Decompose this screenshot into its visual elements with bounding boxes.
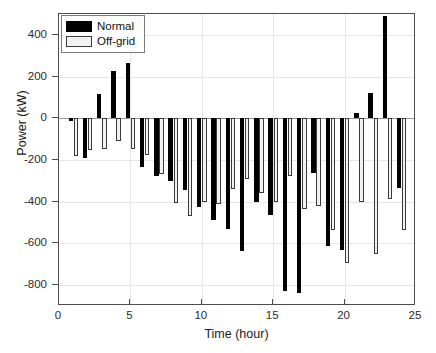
gridline xyxy=(130,14,131,304)
y-tick-mark xyxy=(52,34,58,35)
bar xyxy=(111,71,115,118)
bar xyxy=(154,118,158,175)
bar xyxy=(168,118,172,181)
bar xyxy=(88,118,92,149)
x-tick-mark xyxy=(344,299,345,305)
bar xyxy=(259,118,263,193)
x-tick-label: 10 xyxy=(181,309,221,321)
y-tick-label: -400 xyxy=(1,195,47,207)
legend-entry-normal: Normal xyxy=(66,19,140,34)
bar xyxy=(202,118,206,201)
chart-legend: Normal Off-grid xyxy=(61,15,145,53)
bar xyxy=(83,118,87,158)
legend-swatch-normal-icon xyxy=(66,21,92,32)
bar xyxy=(183,118,187,190)
y-tick-mark xyxy=(52,201,58,202)
legend-swatch-offgrid-icon xyxy=(66,36,92,47)
x-tick-label: 25 xyxy=(395,309,435,321)
legend-label-normal: Normal xyxy=(97,20,134,33)
x-tick-mark xyxy=(272,299,273,305)
bar-chart-figure: 4002000-200-400-600-800 0510152025 Power… xyxy=(0,0,436,353)
bar xyxy=(254,118,258,201)
bar xyxy=(245,118,249,178)
bar xyxy=(69,118,73,121)
bar xyxy=(145,118,149,155)
x-tick-label: 0 xyxy=(38,309,78,321)
bar xyxy=(226,118,230,229)
bar xyxy=(216,118,220,204)
legend-entry-offgrid: Off-grid xyxy=(66,34,140,49)
bar xyxy=(174,118,178,202)
bar xyxy=(274,118,278,201)
bar xyxy=(97,94,101,118)
bar xyxy=(268,118,272,215)
y-tick-mark xyxy=(52,117,58,118)
gridline xyxy=(59,285,414,286)
bar xyxy=(311,118,315,172)
bar xyxy=(297,118,301,293)
bar xyxy=(316,118,320,206)
bar xyxy=(283,118,287,291)
y-tick-mark xyxy=(52,242,58,243)
bar xyxy=(288,118,292,175)
x-tick-mark xyxy=(129,299,130,305)
bar xyxy=(231,118,235,189)
x-tick-label: 15 xyxy=(252,309,292,321)
bar xyxy=(374,118,378,254)
y-axis-title: Power (kW) xyxy=(15,53,29,193)
bar xyxy=(359,118,363,201)
bar xyxy=(326,118,330,245)
gridline xyxy=(59,202,414,203)
x-tick-label: 5 xyxy=(109,309,149,321)
y-tick-mark xyxy=(52,284,58,285)
legend-label-offgrid: Off-grid xyxy=(97,35,135,48)
bar xyxy=(240,118,244,250)
y-tick-mark xyxy=(52,159,58,160)
bar xyxy=(74,118,78,156)
bar xyxy=(197,118,201,207)
bar xyxy=(383,16,387,118)
x-axis-title: Time (hour) xyxy=(58,327,415,341)
bar xyxy=(159,118,163,173)
plot-area xyxy=(58,13,415,305)
bar xyxy=(368,93,372,118)
bar xyxy=(345,118,349,263)
bar xyxy=(211,118,215,220)
y-tick-label: -600 xyxy=(1,236,47,248)
bar xyxy=(140,118,144,167)
bar xyxy=(102,118,106,148)
bar xyxy=(126,63,130,118)
bar xyxy=(388,118,392,198)
y-tick-label: -800 xyxy=(1,278,47,290)
bar xyxy=(188,118,192,216)
y-tick-mark xyxy=(52,76,58,77)
bar xyxy=(302,118,306,209)
bar xyxy=(397,118,401,188)
bar xyxy=(402,118,406,230)
y-tick-label: 400 xyxy=(1,28,47,40)
bar xyxy=(331,118,335,230)
x-tick-label: 20 xyxy=(324,309,364,321)
gridline xyxy=(59,243,414,244)
bar xyxy=(131,118,135,148)
bar xyxy=(340,118,344,249)
bar xyxy=(354,113,358,118)
x-tick-mark xyxy=(201,299,202,305)
bar xyxy=(116,118,120,141)
